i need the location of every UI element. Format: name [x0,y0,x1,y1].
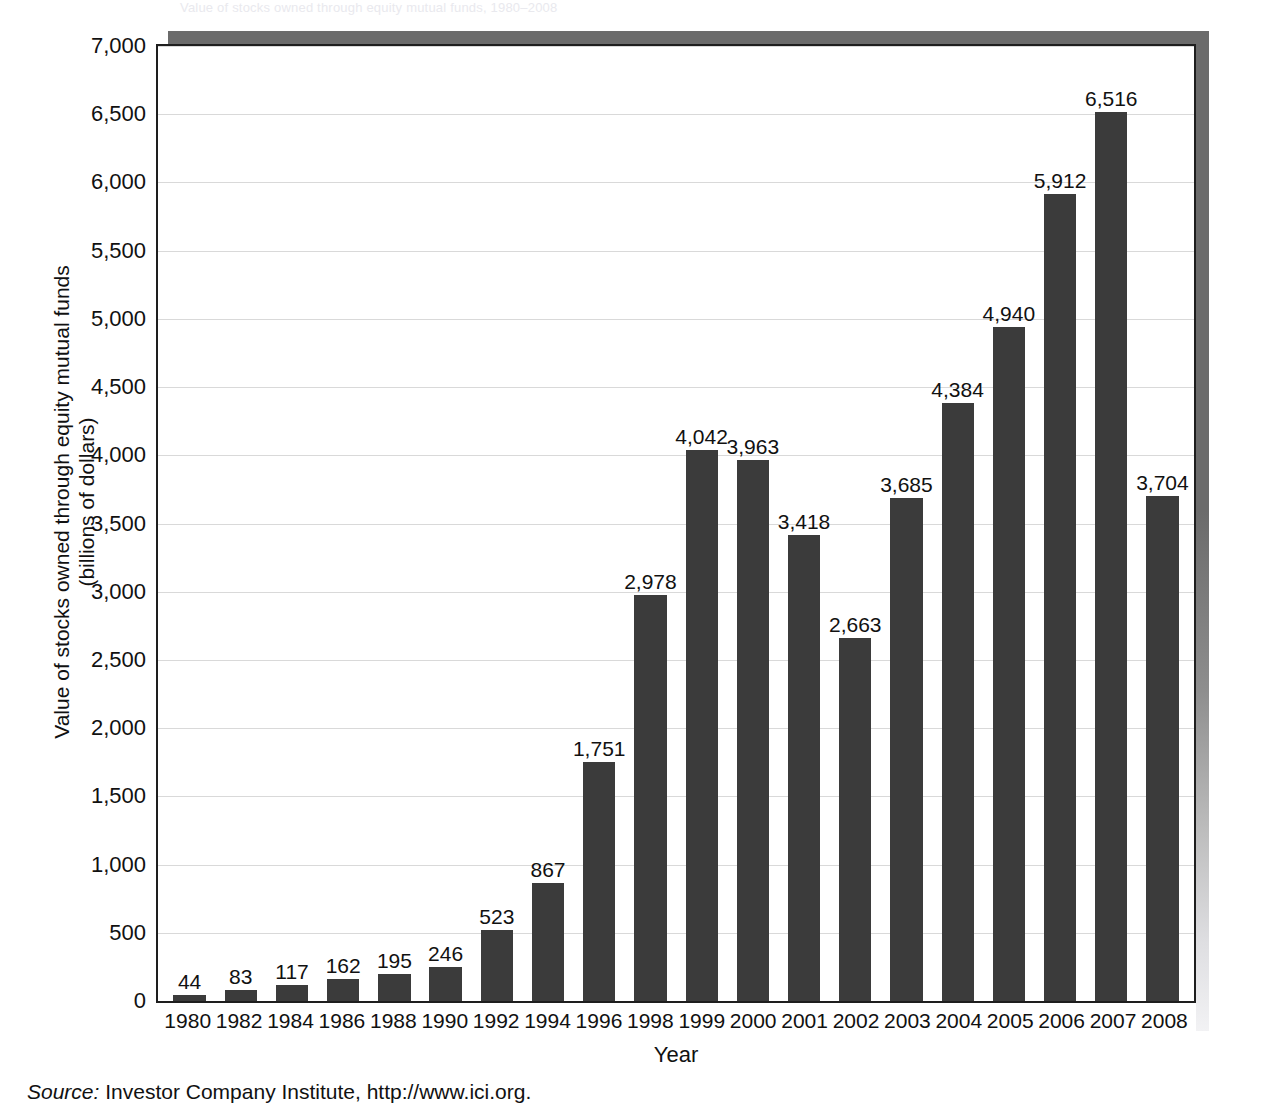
bar-slot: 246 [420,46,471,1001]
bar-2000[interactable]: 3,963 [737,460,769,1001]
x-axis-tick-1996: 1996 [573,1010,624,1031]
bar-value-label: 83 [229,966,252,987]
bar-slot: 4,940 [983,46,1034,1001]
x-axis-tick-1986: 1986 [316,1010,367,1031]
x-axis-tick-1999: 1999 [676,1010,727,1031]
x-axis-tick-1984: 1984 [265,1010,316,1031]
bar-slot: 2,978 [625,46,676,1001]
source-text: Investor Company Institute, http://www.i… [105,1080,531,1103]
x-axis-tick-1992: 1992 [470,1010,521,1031]
bar-value-label: 1,751 [573,738,626,759]
bar-series: 44831171621952465238671,7512,9784,0423,9… [158,46,1194,1001]
bar-value-label: 6,516 [1085,88,1138,109]
x-axis-tick-2001: 2001 [779,1010,830,1031]
y-axis-title: Value of stocks owned through equity mut… [46,0,102,1003]
bar-slot: 2,663 [830,46,881,1001]
bar-1992[interactable]: 523 [481,930,513,1001]
bar-1980[interactable]: 44 [173,995,205,1001]
bar-1990[interactable]: 246 [429,967,461,1001]
bar-slot: 3,963 [727,46,778,1001]
x-axis-tick-1994: 1994 [522,1010,573,1031]
bar-value-label: 4,042 [675,426,728,447]
plot-shadow-right [1196,31,1209,1031]
bar-slot: 44 [164,46,215,1001]
figure: Value of stocks owned through equity mut… [0,0,1269,1111]
source-note: Source: Investor Company Institute, http… [27,1080,531,1104]
bar-2007[interactable]: 6,516 [1095,112,1127,1001]
bar-value-label: 4,940 [983,303,1036,324]
bar-1982[interactable]: 83 [225,990,257,1001]
bar-1994[interactable]: 867 [532,883,564,1001]
x-axis-tick-2002: 2002 [830,1010,881,1031]
bar-value-label: 3,704 [1136,472,1189,493]
bar-2001[interactable]: 3,418 [788,535,820,1001]
bar-slot: 4,384 [932,46,983,1001]
bar-slot: 1,751 [574,46,625,1001]
bar-slot: 162 [318,46,369,1001]
bar-1999[interactable]: 4,042 [686,450,718,1001]
y-axis-title-line2: (billions of dollars) [75,417,98,586]
x-axis-tick-1998: 1998 [625,1010,676,1031]
bar-slot: 3,418 [778,46,829,1001]
x-axis-tick-1980: 1980 [162,1010,213,1031]
bar-slot: 3,704 [1137,46,1188,1001]
bar-slot: 523 [471,46,522,1001]
bar-value-label: 3,685 [880,474,933,495]
x-axis-tick-2004: 2004 [933,1010,984,1031]
bar-slot: 3,685 [881,46,932,1001]
bar-value-label: 195 [377,950,412,971]
bar-slot: 6,516 [1086,46,1137,1001]
bar-slot: 867 [522,46,573,1001]
x-axis-tick-2007: 2007 [1087,1010,1138,1031]
x-axis-tick-labels: 1980198219841986198819901992199419961998… [156,1010,1196,1031]
source-label: Source: [27,1080,99,1103]
bar-value-label: 246 [428,943,463,964]
bar-2006[interactable]: 5,912 [1044,194,1076,1001]
bar-slot: 4,042 [676,46,727,1001]
bar-value-label: 867 [530,859,565,880]
bar-1996[interactable]: 1,751 [583,762,615,1001]
x-axis-tick-2006: 2006 [1036,1010,1087,1031]
bar-1986[interactable]: 162 [327,979,359,1001]
x-axis-tick-2008: 2008 [1139,1010,1190,1031]
bar-value-label: 2,978 [624,571,677,592]
bar-value-label: 117 [275,961,308,982]
bar-2005[interactable]: 4,940 [993,327,1025,1001]
x-axis-title: Year [156,1042,1196,1068]
bar-1984[interactable]: 117 [276,985,308,1001]
x-axis-tick-1982: 1982 [213,1010,264,1031]
bar-value-label: 44 [178,971,201,992]
x-axis-tick-2005: 2005 [985,1010,1036,1031]
bar-value-label: 4,384 [931,379,984,400]
bar-2008[interactable]: 3,704 [1146,496,1178,1001]
bar-slot: 117 [266,46,317,1001]
bar-value-label: 5,912 [1034,170,1087,191]
y-axis-title-line1: Value of stocks owned through equity mut… [50,265,73,739]
bar-2004[interactable]: 4,384 [942,403,974,1001]
bar-slot: 5,912 [1034,46,1085,1001]
bar-1998[interactable]: 2,978 [634,595,666,1001]
bar-value-label: 3,963 [727,436,780,457]
bar-2003[interactable]: 3,685 [890,498,922,1001]
x-axis-tick-2003: 2003 [882,1010,933,1031]
clipped-header-text: Value of stocks owned through equity mut… [0,0,1269,16]
bar-value-label: 523 [479,906,514,927]
bar-2002[interactable]: 2,663 [839,638,871,1001]
x-axis-tick-1990: 1990 [419,1010,470,1031]
bar-1988[interactable]: 195 [378,974,410,1001]
plot-inner: 44831171621952465238671,7512,9784,0423,9… [158,46,1194,1001]
x-axis-tick-1988: 1988 [368,1010,419,1031]
plot-area: 44831171621952465238671,7512,9784,0423,9… [156,44,1196,1003]
bar-value-label: 2,663 [829,614,882,635]
x-axis-tick-2000: 2000 [727,1010,778,1031]
bar-slot: 195 [369,46,420,1001]
bar-slot: 83 [215,46,266,1001]
bar-value-label: 162 [326,955,361,976]
bar-value-label: 3,418 [778,511,831,532]
plot-shadow-top [168,31,1209,44]
